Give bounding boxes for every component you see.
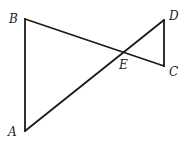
segment-bc xyxy=(25,19,164,66)
segment-da xyxy=(25,20,164,131)
label-d: D xyxy=(168,9,179,23)
label-e: E xyxy=(118,58,128,72)
label-a: A xyxy=(7,125,17,139)
label-b: B xyxy=(8,12,18,26)
label-c: C xyxy=(169,65,178,79)
geometry-diagram: A B C D E xyxy=(0,0,186,141)
